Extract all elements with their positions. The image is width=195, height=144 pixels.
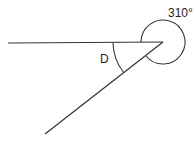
inner-angle-label: D: [100, 52, 109, 66]
angle-diagram: 310° D: [0, 0, 195, 144]
reflex-angle-label: 310°: [168, 6, 193, 20]
angle-figure: [0, 0, 195, 144]
horizontal-ray: [8, 42, 163, 43]
inner-angle-arc: [113, 43, 124, 73]
